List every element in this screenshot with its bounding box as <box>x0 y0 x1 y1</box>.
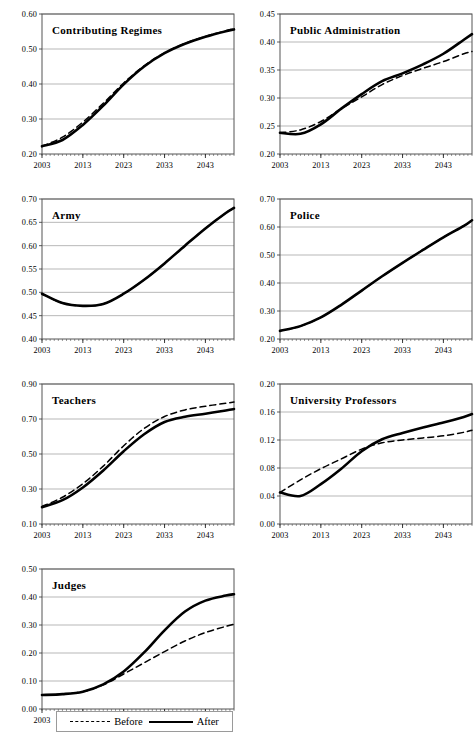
y-axis-tick-label: 0.00 <box>260 520 275 529</box>
y-axis-tick-label: 0.70 <box>260 195 275 204</box>
series-line-before <box>280 52 472 133</box>
x-axis-tick-label: 2003 <box>271 346 288 355</box>
panel-teachers: 0.100.300.500.700.9020032013202320332043… <box>12 376 244 546</box>
series-line-after <box>42 29 234 146</box>
series-line-before <box>280 430 472 492</box>
y-axis-tick-label: 0.60 <box>260 223 275 232</box>
y-axis-tick-label: 0.25 <box>260 122 275 131</box>
y-axis-tick-label: 0.40 <box>22 335 37 344</box>
y-axis-tick-label: 0.10 <box>22 520 37 529</box>
panel-title: Contributing Regimes <box>52 24 163 36</box>
x-axis-tick-label: 2043 <box>435 346 452 355</box>
x-axis-tick-label: 2043 <box>435 161 452 170</box>
x-axis-tick-label: 2033 <box>394 531 411 540</box>
x-axis-tick-label: 2043 <box>197 346 214 355</box>
panel-judges: 0.000.100.200.300.400.502003201320232033… <box>12 561 244 731</box>
y-axis-tick-label: 0.20 <box>22 649 37 658</box>
series-line-after <box>280 34 472 134</box>
x-axis-tick-label: 2033 <box>156 346 173 355</box>
y-axis-tick-label: 0.10 <box>22 677 37 686</box>
y-axis-tick-label: 0.50 <box>260 251 275 260</box>
dashed-line-swatch-icon <box>70 721 110 722</box>
y-axis-tick-label: 0.90 <box>22 380 37 389</box>
y-axis-tick-label: 0.40 <box>260 279 275 288</box>
x-axis-tick-label: 2003 <box>271 161 288 170</box>
series-line-before <box>42 29 234 146</box>
y-axis-tick-label: 0.20 <box>260 335 275 344</box>
y-axis-tick-label: 0.70 <box>22 415 37 424</box>
y-axis-tick-label: 0.16 <box>260 408 275 417</box>
x-axis-tick-label: 2023 <box>353 531 370 540</box>
panel-title: Police <box>290 209 320 221</box>
panel-contributing-regimes: 0.200.300.400.500.6020032013202320332043… <box>12 6 244 176</box>
x-axis-tick-label: 2043 <box>435 531 452 540</box>
y-axis-tick-label: 0.60 <box>22 242 37 251</box>
x-axis-tick-label: 2043 <box>197 531 214 540</box>
x-axis-tick-label: 2013 <box>74 161 91 170</box>
figure-legend: Before After <box>56 711 233 732</box>
y-axis-tick-label: 0.40 <box>260 38 275 47</box>
y-axis-tick-label: 0.65 <box>22 218 37 227</box>
legend-label-before: Before <box>114 716 143 727</box>
x-axis-tick-label: 2003 <box>33 531 50 540</box>
y-axis-tick-label: 0.04 <box>260 492 275 501</box>
x-axis-tick-label: 2033 <box>394 161 411 170</box>
series-line-after <box>280 220 472 331</box>
x-axis-tick-label: 2013 <box>74 531 91 540</box>
y-axis-tick-label: 0.00 <box>22 705 37 714</box>
y-axis-tick-label: 0.30 <box>260 307 275 316</box>
series-line-after <box>42 594 234 695</box>
x-axis-tick-label: 2003 <box>33 161 50 170</box>
x-axis-tick-label: 2023 <box>115 531 132 540</box>
y-axis-tick-label: 0.30 <box>260 94 275 103</box>
panel-university-professors: 0.000.040.080.120.160.202003201320232033… <box>250 376 474 546</box>
panel-title: University Professors <box>290 394 397 406</box>
y-axis-tick-label: 0.20 <box>22 150 37 159</box>
x-axis-tick-label: 2023 <box>115 346 132 355</box>
legend-item-after: After <box>149 716 219 727</box>
x-axis-tick-label: 2043 <box>197 161 214 170</box>
x-axis-tick-label: 2013 <box>312 346 329 355</box>
legend-item-before: Before <box>70 716 143 727</box>
y-axis-tick-label: 0.45 <box>260 10 275 19</box>
y-axis-tick-label: 0.35 <box>260 66 275 75</box>
y-axis-tick-label: 0.50 <box>22 565 37 574</box>
figure-panel-grid: 0.200.300.400.500.6020032013202320332043… <box>0 0 474 744</box>
y-axis-tick-label: 0.12 <box>260 436 275 445</box>
y-axis-tick-label: 0.30 <box>22 485 37 494</box>
y-axis-tick-label: 0.40 <box>22 80 37 89</box>
y-axis-tick-label: 0.50 <box>22 288 37 297</box>
x-axis-tick-label: 2023 <box>353 346 370 355</box>
x-axis-tick-label: 2033 <box>394 346 411 355</box>
y-axis-tick-label: 0.50 <box>22 45 37 54</box>
y-axis-tick-label: 0.50 <box>22 450 37 459</box>
x-axis-tick-label: 2013 <box>312 531 329 540</box>
legend-label-after: After <box>197 716 219 727</box>
x-axis-tick-label: 2013 <box>74 346 91 355</box>
panel-army: 0.400.450.500.550.600.650.70200320132023… <box>12 191 244 361</box>
panel-public-administration: 0.200.250.300.350.400.452003201320232033… <box>250 6 474 176</box>
x-axis-tick-label: 2013 <box>312 161 329 170</box>
x-axis-tick-label: 2033 <box>156 161 173 170</box>
x-axis-tick-label: 2003 <box>33 716 50 725</box>
panel-police: 0.200.300.400.500.600.702003201320232033… <box>250 191 474 361</box>
y-axis-tick-label: 0.30 <box>22 621 37 630</box>
panel-title: Public Administration <box>290 24 401 36</box>
x-axis-tick-label: 2003 <box>271 531 288 540</box>
x-axis-tick-label: 2023 <box>115 161 132 170</box>
y-axis-tick-label: 0.20 <box>260 380 275 389</box>
x-axis-tick-label: 2023 <box>353 161 370 170</box>
x-axis-tick-label: 2033 <box>156 531 173 540</box>
y-axis-tick-label: 0.45 <box>22 312 37 321</box>
y-axis-tick-label: 0.70 <box>22 195 37 204</box>
panel-title: Judges <box>52 579 87 591</box>
y-axis-tick-label: 0.55 <box>22 265 37 274</box>
y-axis-tick-label: 0.30 <box>22 115 37 124</box>
series-line-after <box>280 414 472 496</box>
y-axis-tick-label: 0.40 <box>22 593 37 602</box>
panel-title: Teachers <box>52 394 97 406</box>
y-axis-tick-label: 0.08 <box>260 464 275 473</box>
panel-title: Army <box>52 209 81 221</box>
y-axis-tick-label: 0.60 <box>22 10 37 19</box>
x-axis-tick-label: 2003 <box>33 346 50 355</box>
